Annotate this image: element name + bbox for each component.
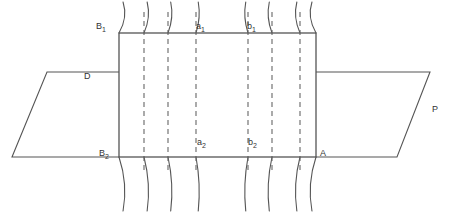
central-rectangle bbox=[119, 33, 316, 157]
figure-canvas: B1 a1 b1 B2 a2 b2 A D P bbox=[0, 0, 451, 213]
label-b1-lower: b1 bbox=[247, 22, 256, 33]
label-A: A bbox=[320, 149, 326, 160]
label-D: D bbox=[84, 72, 91, 83]
label-a1: a1 bbox=[196, 22, 205, 33]
field-curves-top bbox=[119, 2, 316, 33]
label-B1: B1 bbox=[96, 22, 106, 33]
side-planes bbox=[12, 72, 430, 157]
field-curves-bottom bbox=[119, 157, 316, 211]
label-b2-lower: b2 bbox=[248, 138, 257, 149]
label-a2: a2 bbox=[197, 138, 206, 149]
label-P: P bbox=[432, 105, 438, 116]
internal-dashed-lines bbox=[144, 12, 300, 171]
diagram-svg bbox=[0, 0, 451, 213]
label-B2: B2 bbox=[99, 149, 109, 160]
